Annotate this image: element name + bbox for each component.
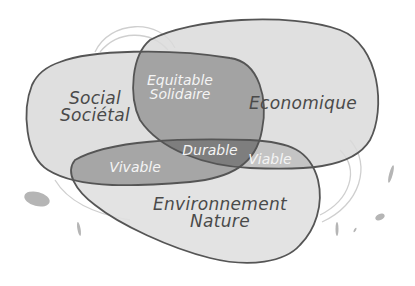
label-environnement: Environnement Nature	[150, 196, 290, 230]
label-economique: Economique	[248, 95, 358, 112]
label-durable: Durable	[175, 143, 245, 157]
label-equitable-solidaire: Equitable Solidaire	[140, 73, 220, 101]
label-viable: Viable	[245, 152, 295, 166]
label-social-line2: Sociétal	[50, 107, 140, 124]
label-vivable: Vivable	[105, 160, 165, 174]
label-solidaire: Solidaire	[140, 87, 220, 101]
label-social: Social Sociétal	[50, 90, 140, 124]
label-equitable: Equitable	[140, 73, 220, 87]
label-environnement-line2: Nature	[150, 213, 290, 230]
